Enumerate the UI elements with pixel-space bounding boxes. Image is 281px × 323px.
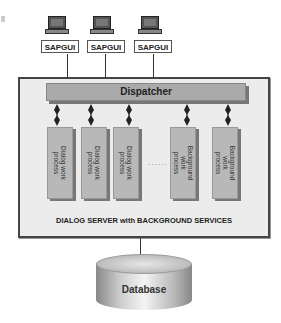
background-work-process: Background work process: [170, 127, 196, 199]
double-arrow-icon: [225, 104, 231, 126]
database-label: Database: [96, 284, 192, 295]
ellipsis: ......: [148, 158, 167, 167]
double-arrow-icon: [54, 104, 60, 126]
computer-icon: [138, 16, 162, 36]
database-top: [96, 254, 192, 274]
sapgui-client-3: SAPGUI: [134, 40, 172, 53]
dialog-work-process: Dialog work process: [113, 127, 139, 199]
dialog-work-process: Dialog work process: [81, 127, 107, 199]
double-arrow-icon: [126, 104, 132, 126]
database-cylinder: Database: [96, 254, 192, 314]
background-work-process: Background work process: [212, 127, 238, 199]
dialog-work-process: Dialog work process: [47, 127, 73, 199]
double-arrow-icon: [184, 104, 190, 126]
computer-icon: [45, 16, 69, 36]
double-arrow-icon: [88, 104, 94, 126]
dispatcher-box: Dispatcher: [46, 83, 246, 101]
server-caption: DIALOG SERVER with BACKGROUND SERVICES: [18, 216, 270, 225]
margin-mark: [1, 16, 5, 22]
computer-icon: [90, 16, 114, 36]
sapgui-client-2: SAPGUI: [87, 40, 125, 53]
sapgui-client-1: SAPGUI: [41, 40, 79, 53]
